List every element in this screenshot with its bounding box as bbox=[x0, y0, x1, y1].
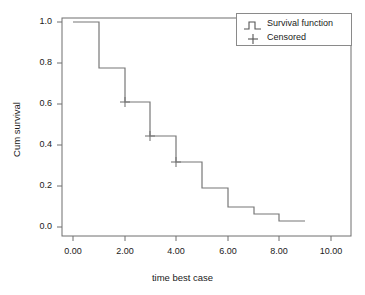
y-tick-label: 0.6 bbox=[22, 98, 52, 108]
y-tick-label: 0.8 bbox=[22, 57, 52, 67]
x-tick-label: 10.00 bbox=[311, 246, 351, 256]
survival-chart: 1.0 0.8 0.6 0.4 0.2 0.0 0.00 2.00 4.00 6… bbox=[0, 0, 365, 295]
y-axis-ticks bbox=[57, 22, 62, 227]
plus-symbol-icon bbox=[242, 31, 264, 43]
legend-label: Censored bbox=[267, 32, 306, 42]
legend: Survival function Censored bbox=[236, 13, 352, 46]
x-axis-title: time best case bbox=[0, 272, 365, 283]
y-tick-label: 0.4 bbox=[22, 139, 52, 149]
x-tick-label: 6.00 bbox=[208, 246, 248, 256]
x-tick-label: 0.00 bbox=[53, 246, 93, 256]
x-axis-ticks bbox=[73, 236, 331, 241]
y-tick-label: 0.2 bbox=[22, 180, 52, 190]
legend-label: Survival function bbox=[267, 18, 333, 28]
x-tick-label: 8.00 bbox=[259, 246, 299, 256]
step-symbol-icon bbox=[242, 17, 264, 29]
y-tick-label: 0.0 bbox=[22, 221, 52, 231]
x-tick-label: 4.00 bbox=[156, 246, 196, 256]
plot-frame bbox=[62, 18, 351, 236]
legend-item-censored: Censored bbox=[242, 31, 306, 43]
legend-item-survival-function: Survival function bbox=[242, 17, 333, 29]
x-tick-label: 2.00 bbox=[105, 246, 145, 256]
y-tick-label: 1.0 bbox=[22, 16, 52, 26]
y-axis-title: Cum survival bbox=[11, 80, 22, 180]
